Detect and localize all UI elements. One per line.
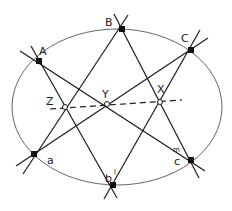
label-C: C bbox=[181, 32, 189, 45]
label-B: B bbox=[105, 16, 113, 29]
label-a: a bbox=[47, 154, 54, 167]
label-Y: Y bbox=[101, 88, 109, 101]
label-c: c bbox=[174, 155, 180, 168]
point-Y bbox=[105, 102, 110, 107]
label-b: b bbox=[105, 172, 112, 185]
point-Z bbox=[63, 105, 68, 110]
point-X bbox=[158, 100, 163, 105]
label-X: X bbox=[157, 83, 165, 96]
point-B bbox=[119, 26, 125, 32]
label-b-prime-mark: l bbox=[114, 168, 116, 176]
point-c bbox=[188, 157, 194, 163]
label-m-mark: m bbox=[173, 146, 180, 154]
label-A: A bbox=[39, 45, 47, 58]
point-A bbox=[36, 58, 42, 64]
pascal-diagram: A B C a b l c m Z Y X bbox=[0, 0, 232, 211]
point-C bbox=[188, 47, 194, 53]
label-Z: Z bbox=[46, 95, 54, 108]
point-a bbox=[31, 151, 37, 157]
